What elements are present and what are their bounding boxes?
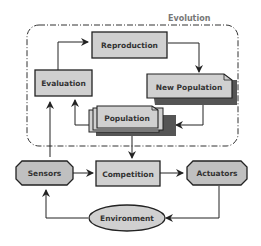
node-environment: Environment	[89, 205, 165, 231]
node-new-population: New Population	[147, 74, 237, 105]
node-actuators: Actuators	[187, 161, 247, 185]
arrow-evaluation-to-reproduction	[58, 42, 88, 70]
arrow-newpop-to-population	[176, 104, 203, 125]
node-evaluation: Evaluation	[35, 70, 92, 96]
arrow-environment-to-sensors	[46, 190, 88, 218]
node-environment-label: Environment	[100, 214, 154, 223]
evolution-group-title: Evolution	[168, 14, 211, 23]
node-population: Population	[89, 106, 176, 136]
node-new-population-label: New Population	[156, 83, 223, 92]
node-actuators-label: Actuators	[196, 169, 238, 178]
node-reproduction: Reproduction	[92, 32, 167, 58]
node-population-label: Population	[104, 114, 150, 123]
node-evaluation-label: Evaluation	[41, 79, 86, 88]
node-sensors: Sensors	[16, 161, 73, 185]
arrow-reproduction-to-newpop	[168, 43, 199, 72]
node-sensors-label: Sensors	[28, 169, 62, 178]
arrow-actuators-to-environment	[166, 186, 219, 218]
node-reproduction-label: Reproduction	[101, 41, 158, 50]
evolution-diagram: Evolution Reproduction Evaluation New Po…	[0, 0, 261, 246]
node-competition: Competition	[96, 161, 160, 186]
node-competition-label: Competition	[102, 170, 154, 179]
